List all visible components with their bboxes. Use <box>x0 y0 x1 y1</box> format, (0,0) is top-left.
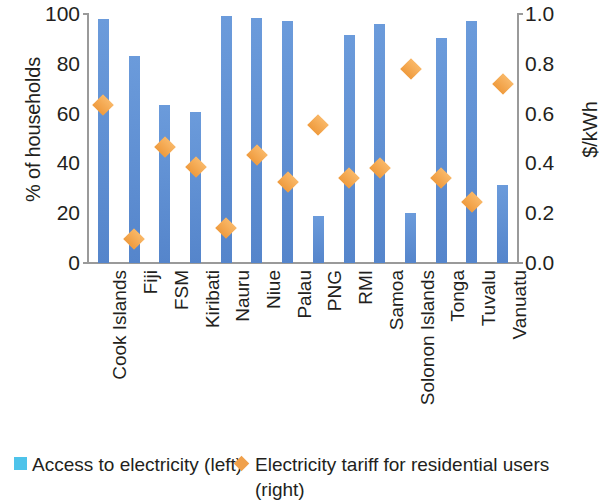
y-axis-right-tick-label: 0.4 <box>525 152 585 173</box>
diamond-marker <box>308 114 329 135</box>
diamond-marker <box>185 157 206 178</box>
bar <box>405 213 416 263</box>
y-axis-left-tick-label: 0 <box>18 252 80 273</box>
bar <box>374 24 385 263</box>
x-axis-category-label: Fiji <box>141 270 160 294</box>
x-axis-category-label: Samoa <box>387 270 406 330</box>
y-axis-right-tick-label: 0.0 <box>525 252 585 273</box>
x-axis-category-label: Palau <box>295 270 314 319</box>
diamond-marker <box>400 58 421 79</box>
diamond-marker <box>492 73 513 94</box>
x-axis-category-label: Cook Islands <box>110 270 129 380</box>
diamond-marker <box>461 191 482 212</box>
diamond-swatch-icon <box>234 456 250 472</box>
bar <box>466 21 477 263</box>
diamond-marker <box>123 229 144 250</box>
y-axis-left-tick-label: 60 <box>18 103 80 124</box>
y-axis-left-tick-label: 100 <box>18 3 80 24</box>
y-axis-left-tick-label: 80 <box>18 53 80 74</box>
y-axis-left-tick-label: 40 <box>18 152 80 173</box>
diamond-marker <box>246 144 267 165</box>
diamond-marker <box>93 94 114 115</box>
y-axis-left-tick-label: 20 <box>18 202 80 223</box>
bar <box>313 216 324 263</box>
y-axis-right-tick-label: 0.2 <box>525 202 585 223</box>
bar <box>159 105 170 263</box>
y-axis-right-tick-label: 1.0 <box>525 3 585 24</box>
y-axis-right-tick <box>518 262 523 264</box>
bar <box>497 185 508 263</box>
legend-label-access-to-electricity: Access to electricity (left) <box>32 452 242 477</box>
diamond-marker <box>369 158 390 179</box>
y-axis-left-tick <box>83 262 88 264</box>
bar <box>98 19 109 263</box>
diamond-marker <box>338 168 359 189</box>
legend-item-access-to-electricity[interactable]: Access to electricity (left) <box>14 452 242 477</box>
bar <box>251 18 262 263</box>
x-axis-category-label: RMI <box>356 270 375 305</box>
x-axis-category-label: Kiribati <box>203 270 222 328</box>
x-axis-category-label: Vanuatu <box>510 270 529 339</box>
plot-area <box>88 14 518 263</box>
y-axis-left-tick <box>83 13 88 15</box>
bar <box>282 21 293 263</box>
x-axis-category-label: Solonon Islands <box>418 270 437 405</box>
x-axis-category-label: PNG <box>325 270 344 311</box>
diamond-marker <box>216 218 237 239</box>
bar <box>436 38 447 263</box>
square-swatch-icon <box>14 457 27 470</box>
diamond-marker <box>154 137 175 158</box>
x-axis-category-label: FSM <box>172 270 191 310</box>
diamond-marker <box>431 168 452 189</box>
y-axis-right-tick <box>518 13 523 15</box>
x-axis-category-label: Tonga <box>448 270 467 322</box>
bar <box>344 35 355 263</box>
x-axis-category-label: Niue <box>264 270 283 309</box>
y-axis-right-tick-label: 0.6 <box>525 103 585 124</box>
bar <box>190 112 201 263</box>
x-axis-category-label: Tuvalu <box>479 270 498 326</box>
legend-item-electricity-tariff[interactable]: Electricity tariff for residential users… <box>236 452 586 502</box>
legend-label-electricity-tariff: Electricity tariff for residential users… <box>255 452 565 502</box>
y-axis-right-tick-label: 0.8 <box>525 53 585 74</box>
x-axis-category-label: Nauru <box>233 270 252 322</box>
diamond-marker <box>277 171 298 192</box>
